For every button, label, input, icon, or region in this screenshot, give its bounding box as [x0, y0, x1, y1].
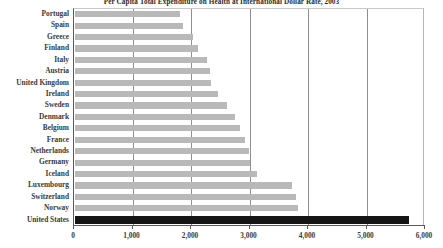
- chart-title: Per Capita Total Expenditure on Health a…: [0, 0, 443, 7]
- x-tick-label: 3,000: [240, 231, 257, 240]
- category-label: France: [47, 134, 69, 145]
- x-tick-label: 0: [71, 231, 75, 240]
- x-tick-label: 1,000: [123, 231, 140, 240]
- plot-area: [73, 8, 424, 225]
- x-tick: [132, 225, 133, 229]
- bar-row: [74, 20, 423, 31]
- category-label: Greece: [47, 31, 69, 42]
- category-label: Italy: [54, 54, 69, 65]
- bar: [75, 114, 235, 120]
- category-label: Switzerland: [31, 191, 69, 202]
- category-label: Portugal: [41, 8, 69, 19]
- bar: [75, 57, 207, 63]
- category-label: Germany: [39, 156, 69, 167]
- category-label: Denmark: [39, 111, 69, 122]
- category-label: Finland: [44, 42, 69, 53]
- bar-row: [74, 9, 423, 20]
- x-tick: [73, 225, 74, 229]
- bar: [75, 68, 210, 74]
- bar: [75, 205, 298, 211]
- bar: [75, 194, 296, 200]
- category-label: Ireland: [46, 88, 69, 99]
- bar-row: [74, 157, 423, 168]
- chart-container: Per Capita Total Expenditure on Health a…: [0, 0, 443, 248]
- bar: [75, 216, 409, 223]
- category-label: Austria: [45, 65, 69, 76]
- bar: [75, 182, 292, 188]
- bar-row: [74, 89, 423, 100]
- bar: [75, 160, 250, 166]
- category-label: Luxembourg: [28, 179, 69, 190]
- category-label: Iceland: [46, 168, 69, 179]
- bar-row: [74, 123, 423, 134]
- x-tick: [366, 225, 367, 229]
- bar: [75, 45, 198, 51]
- bar-series: [74, 9, 423, 225]
- category-label: Belgium: [43, 122, 69, 133]
- category-label: United States: [27, 214, 69, 225]
- bar: [75, 34, 193, 40]
- bar-row: [74, 112, 423, 123]
- bar: [75, 171, 257, 177]
- bar: [75, 23, 183, 29]
- bar: [75, 102, 227, 108]
- x-tick: [190, 225, 191, 229]
- bar-row: [74, 146, 423, 157]
- category-label: Sweden: [45, 99, 69, 110]
- bar: [75, 91, 218, 97]
- bar: [75, 125, 240, 131]
- x-tick: [424, 225, 425, 229]
- bar: [75, 148, 249, 154]
- bar: [75, 137, 245, 143]
- bar: [75, 11, 180, 17]
- bar-row: [74, 55, 423, 66]
- category-label: United Kingdom: [16, 77, 69, 88]
- x-tick-label: 2,000: [182, 231, 199, 240]
- x-tick-label: 6,000: [416, 231, 433, 240]
- category-label: Netherlands: [30, 145, 69, 156]
- bar-row: [74, 203, 423, 214]
- bar-row: [74, 32, 423, 43]
- category-label: Norway: [44, 202, 69, 213]
- bar-row: [74, 180, 423, 191]
- bar-row: [74, 100, 423, 111]
- x-tick-label: 4,000: [299, 231, 316, 240]
- category-label: Spain: [51, 19, 69, 30]
- bar-row: [74, 66, 423, 77]
- bar-row: [74, 78, 423, 89]
- x-tick-label: 5,000: [357, 231, 374, 240]
- x-tick: [249, 225, 250, 229]
- bar-row: [74, 135, 423, 146]
- bar-row: [74, 43, 423, 54]
- y-axis-category-labels: PortugalSpainGreeceFinlandItalyAustriaUn…: [0, 8, 71, 225]
- bar: [75, 80, 211, 86]
- x-tick: [307, 225, 308, 229]
- bar-row: [74, 192, 423, 203]
- bar-row: [74, 169, 423, 180]
